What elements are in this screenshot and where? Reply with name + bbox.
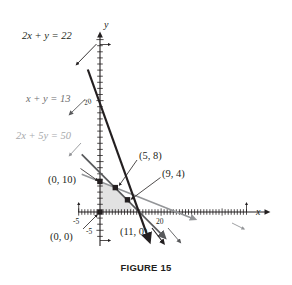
point-marker-5-8 [113, 185, 118, 190]
figure-caption: FIGURE 15 [0, 262, 292, 273]
y-axis-label: y [103, 19, 109, 30]
y-tick-label-20: 20 [83, 96, 93, 107]
x-tick-label-20: 20 [156, 217, 164, 226]
label-vertex-0-10: (0, 10) [48, 174, 76, 186]
leader-9-4 [132, 178, 161, 200]
point-marker-0-10 [97, 179, 102, 184]
direction-arrow-x-plus-y-13 [168, 228, 180, 242]
label-vertex-9-4: (9, 4) [162, 168, 185, 180]
label-vertex-11-0: (11, 0) [120, 226, 148, 238]
point-marker-9-4 [125, 197, 130, 202]
leader-x-plus-y-13 [70, 100, 85, 115]
graph-canvas: y x 2x + y = 22 x + y = 13 2x + 5y = 50 … [0, 0, 292, 285]
x-axis-label: x [255, 206, 261, 217]
label-line-2x-plus-5y-50: 2x + 5y = 50 [16, 130, 72, 141]
label-line-2x-plus-y-22: 2x + y = 22 [22, 30, 72, 41]
label-vertex-0-0: (0, 0) [50, 231, 73, 243]
leader-2x-plus-5y-50 [70, 143, 82, 156]
leader-2x-plus-y-22 [77, 44, 97, 65]
label-line-x-plus-y-13: x + y = 13 [25, 93, 71, 104]
point-marker-0-0 [97, 209, 102, 214]
direction-arrow-2x-plus-5y-50 [232, 223, 244, 229]
figure-container: y x 2x + y = 22 x + y = 13 2x + 5y = 50 … [0, 0, 292, 285]
x-tick-label-negative-5: -5 [73, 217, 79, 226]
y-tick-label-negative-5: -5 [86, 227, 92, 236]
label-vertex-5-8: (5, 8) [139, 150, 162, 162]
